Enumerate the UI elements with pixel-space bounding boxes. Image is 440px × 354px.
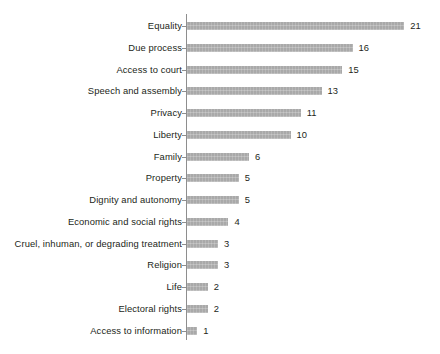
bar-value-label: 21: [410, 15, 420, 37]
category-label: Speech and assembly: [88, 80, 182, 102]
bar: [187, 218, 228, 226]
bar-row: Economic and social rights4: [0, 211, 440, 233]
category-label: Property: [146, 167, 182, 189]
axis-tick: [182, 157, 186, 158]
bar-value-label: 5: [245, 189, 250, 211]
category-label: Privacy: [151, 102, 182, 124]
bar: [187, 66, 342, 74]
bar-row: Equality21: [0, 15, 440, 37]
bar: [187, 240, 218, 248]
axis-tick: [182, 178, 186, 179]
bar-value-label: 1: [203, 320, 208, 342]
bar: [187, 196, 239, 204]
bar-row: Access to information1: [0, 320, 440, 342]
bar-row: Dignity and autonomy5: [0, 189, 440, 211]
bar: [187, 22, 404, 30]
axis-tick: [182, 331, 186, 332]
axis-tick: [182, 26, 186, 27]
bar-value-label: 11: [307, 102, 317, 124]
bar: [187, 174, 239, 182]
bar-value-label: 3: [224, 254, 229, 276]
bar-row: Liberty10: [0, 124, 440, 146]
bar-value-label: 4: [234, 211, 239, 233]
bar-value-label: 10: [297, 124, 307, 146]
bar-value-label: 16: [359, 37, 369, 59]
axis-tick: [182, 113, 186, 114]
category-label: Liberty: [153, 124, 182, 146]
bar: [187, 261, 218, 269]
bar-value-label: 2: [214, 298, 219, 320]
bar-row: Due process16: [0, 37, 440, 59]
bar-row: Life2: [0, 276, 440, 298]
category-label: Economic and social rights: [68, 211, 182, 233]
bar: [187, 305, 208, 313]
axis-tick: [182, 222, 186, 223]
axis-tick: [182, 70, 186, 71]
bar-row: Property5: [0, 167, 440, 189]
bar: [187, 109, 301, 117]
axis-tick: [182, 48, 186, 49]
bar: [187, 327, 197, 335]
category-label: Electoral rights: [118, 298, 182, 320]
bar: [187, 153, 249, 161]
bar-value-label: 15: [348, 59, 358, 81]
category-label: Equality: [148, 15, 182, 37]
category-label: Family: [154, 146, 182, 168]
bar-row: Family6: [0, 146, 440, 168]
bar-value-label: 3: [224, 233, 229, 255]
category-label: Dignity and autonomy: [89, 189, 182, 211]
axis-tick: [182, 244, 186, 245]
axis-tick: [182, 265, 186, 266]
bar: [187, 131, 291, 139]
category-label: Religion: [147, 254, 182, 276]
axis-tick: [182, 135, 186, 136]
axis-tick: [182, 287, 186, 288]
axis-tick: [182, 91, 186, 92]
category-label: Due process: [128, 37, 182, 59]
category-label: Life: [166, 276, 182, 298]
axis-tick: [182, 200, 186, 201]
axis-tick: [182, 309, 186, 310]
category-label: Access to court: [116, 59, 182, 81]
bar-row: Access to court15: [0, 59, 440, 81]
bar-row: Privacy11: [0, 102, 440, 124]
category-label: Cruel, inhuman, or degrading treatment: [15, 233, 182, 255]
bar: [187, 283, 208, 291]
bar-value-label: 5: [245, 167, 250, 189]
bar-row: Cruel, inhuman, or degrading treatment3: [0, 233, 440, 255]
horizontal-bar-chart: Equality21Due process16Access to court15…: [0, 0, 440, 354]
category-label: Access to information: [90, 320, 182, 342]
bar-value-label: 13: [328, 80, 338, 102]
bar: [187, 44, 353, 52]
bar-row: Electoral rights2: [0, 298, 440, 320]
bar-row: Speech and assembly13: [0, 80, 440, 102]
bar-value-label: 6: [255, 146, 260, 168]
bar-value-label: 2: [214, 276, 219, 298]
bar-row: Religion3: [0, 254, 440, 276]
bar: [187, 87, 322, 95]
